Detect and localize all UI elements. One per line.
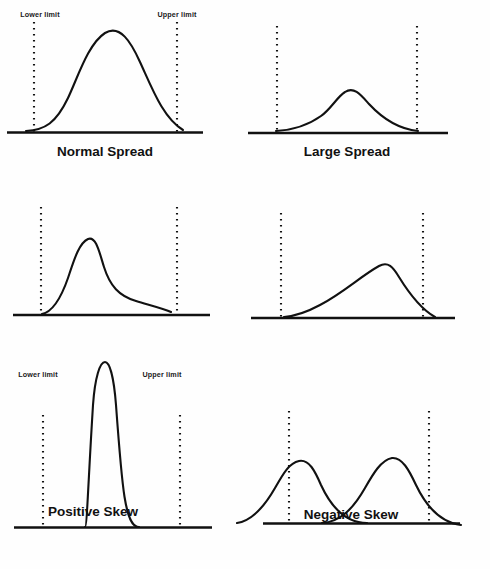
panel-negative-skew: Lower limit Upper limit Negative Skew <box>245 175 490 350</box>
distribution-curve-peaked <box>85 362 139 527</box>
panel-title-large-spread: Large Spread <box>304 145 390 159</box>
distribution-shapes-figure: Lower limit Upper limit Normal Spread Lo… <box>0 0 490 569</box>
lower-limit-label: Lower limit <box>20 11 60 18</box>
panel-positive-skew: Lower limit Upper limit Positive Skew <box>0 175 245 350</box>
distribution-curve-two-peaks-right <box>322 458 461 525</box>
distribution-curve-two-peaks-left <box>237 461 367 523</box>
upper-limit-label: Upper limit <box>157 11 196 18</box>
panel-title-normal-spread: Normal Spread <box>57 145 153 159</box>
distribution-curve-normal-spread <box>26 31 183 131</box>
panel-peaked: Lower limit Upper limit Peaked <box>0 355 245 555</box>
distribution-curve-positive-skew <box>42 239 171 314</box>
panel-normal-spread: Lower limit Upper limit Normal Spread <box>0 0 245 170</box>
panel-large-spread: Lower limit Upper limit Large Spread <box>245 0 490 170</box>
distribution-curve-large-spread <box>276 90 418 131</box>
panel-two-peaks: Lower limit Upper limit Two-peaks <box>245 355 490 555</box>
distribution-curve-negative-skew <box>284 264 435 317</box>
